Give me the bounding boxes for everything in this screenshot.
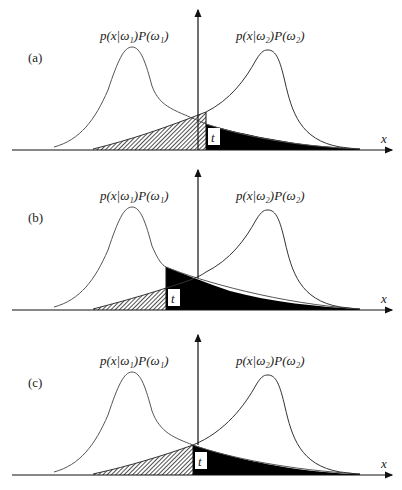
curve2-label: p(x|ω₂)P(ω₂) (235, 353, 305, 368)
curve1-label: p(x|ω₁)P(ω₁) (99, 353, 169, 368)
dark-region (166, 267, 360, 310)
panel-c (12, 335, 392, 475)
curve2-label: p(x|ω₂)P(ω₂) (235, 28, 305, 43)
axis-label: x (380, 291, 387, 306)
panel-a (12, 10, 392, 150)
panel-label: (a) (28, 50, 42, 65)
threshold-label: t (198, 454, 202, 469)
figure-canvas: (a) p(x|ω₁)P(ω₁) p(x|ω₂)P(ω₂) t x (b) p(… (0, 0, 402, 490)
threshold-label: t (211, 130, 215, 145)
axis-label: x (380, 131, 387, 146)
curve1-label: p(x|ω₁)P(ω₁) (99, 188, 169, 203)
panel-b (12, 170, 392, 310)
axis-label: x (380, 456, 387, 471)
panel-label: (c) (28, 375, 42, 390)
panel-label: (b) (28, 210, 43, 225)
curve2-label: p(x|ω₂)P(ω₂) (235, 188, 305, 203)
threshold-label: t (171, 291, 175, 306)
curve1-label: p(x|ω₁)P(ω₁) (99, 28, 169, 43)
